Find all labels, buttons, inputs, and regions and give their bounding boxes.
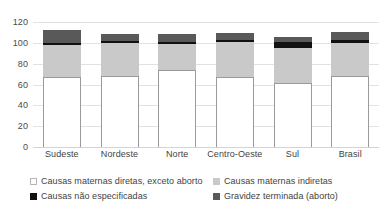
bar-segment-indiretas [331, 43, 369, 76]
bar-segment-indiretas [274, 48, 312, 84]
legend-item-diretas: Causas maternas diretas, exceto aborto [30, 176, 205, 186]
legend-item-nao-especificadas: Causas não especificadas [30, 191, 205, 201]
bar-segment-diretas [43, 77, 81, 147]
legend-swatch-icon [213, 178, 220, 185]
legend-item-label: Causas não especificadas [41, 191, 147, 201]
x-axis-label-sudeste: Sudeste [33, 149, 91, 159]
legend-item-aborto: Gravidez terminada (aborto) [205, 191, 380, 201]
legend-item-label: Gravidez terminada (aborto) [224, 191, 338, 201]
x-axis-label-centro-oeste: Centro-Oeste [206, 149, 264, 159]
plot-area: 120 100 80 60 40 20 0 [33, 22, 379, 147]
x-axis-label-brasil: Brasil [321, 149, 379, 159]
bar-slot-nordeste [91, 22, 149, 147]
bar-slot-centro-oeste [206, 22, 264, 147]
legend-swatch-icon [30, 193, 37, 200]
x-axis-label-sul: Sul [264, 149, 322, 159]
bar-stack [216, 33, 254, 147]
x-axis-labels: Sudeste Nordeste Norte Centro-Oeste Sul … [33, 149, 379, 159]
legend-swatch-icon [213, 193, 220, 200]
bar-segment-aborto [158, 34, 196, 43]
y-tick-label-0: 0 [23, 143, 28, 152]
y-tick-label-60: 60 [18, 80, 28, 89]
bar-segment-diretas [216, 77, 254, 147]
bar-slot-brasil [321, 22, 379, 147]
chart-legend: Causas maternas diretas, exceto aborto C… [30, 176, 380, 206]
legend-item-label: Causas maternas indiretas [224, 176, 332, 186]
bar-segment-diretas [274, 83, 312, 147]
y-tick-label-80: 80 [18, 59, 28, 68]
x-axis-label-nordeste: Nordeste [91, 149, 149, 159]
x-axis-label-norte: Norte [148, 149, 206, 159]
y-tick-label-100: 100 [13, 38, 28, 47]
bar-stack [274, 37, 312, 147]
bar-segment-aborto [43, 30, 81, 43]
bar-segment-indiretas [43, 45, 81, 77]
bar-segment-diretas [331, 76, 369, 147]
legend-item-label: Causas maternas diretas, exceto aborto [41, 176, 202, 186]
bar-slot-sul [264, 22, 322, 147]
gridline-0: 0 [33, 147, 379, 148]
y-tick-label-20: 20 [18, 122, 28, 131]
bar-segment-aborto [331, 32, 369, 40]
stacked-bar-chart: 120 100 80 60 40 20 0 [0, 0, 385, 214]
bar-stack [158, 34, 196, 148]
bar-stack [43, 30, 81, 147]
legend-swatch-icon [30, 178, 37, 185]
bar-segment-indiretas [158, 44, 196, 70]
bar-stack [331, 32, 369, 147]
bar-segment-aborto [101, 34, 139, 42]
bar-segment-diretas [158, 70, 196, 147]
bars-container [33, 22, 379, 147]
bar-segment-indiretas [216, 42, 254, 77]
legend-item-indiretas: Causas maternas indiretas [205, 176, 380, 186]
bar-stack [101, 34, 139, 148]
bar-slot-norte [148, 22, 206, 147]
bar-slot-sudeste [33, 22, 91, 147]
bar-segment-indiretas [101, 43, 139, 76]
y-tick-label-40: 40 [18, 101, 28, 110]
y-tick-label-120: 120 [13, 18, 28, 27]
bar-segment-diretas [101, 76, 139, 147]
